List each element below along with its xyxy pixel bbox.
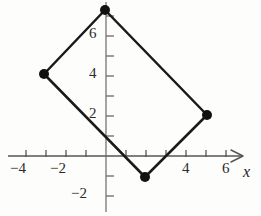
vertex-point xyxy=(140,172,150,182)
x-axis-name-label: x xyxy=(243,164,250,180)
y-tick-label-2: 2 xyxy=(89,106,97,121)
vertex-point xyxy=(202,110,212,120)
x-tick-label-4: 4 xyxy=(182,161,190,176)
y-axis-ticks xyxy=(106,16,114,196)
plot-canvas xyxy=(0,0,261,216)
coordinate-plane-figure: −4 −2 4 6 6 4 2 −2 x xyxy=(0,0,261,216)
vertex-point xyxy=(39,69,49,79)
vertex-point xyxy=(100,5,110,15)
x-tick-label--2: −2 xyxy=(50,161,66,176)
y-tick-label-4: 4 xyxy=(89,66,97,81)
x-tick-label--4: −4 xyxy=(10,161,26,176)
y-tick-label--2: −2 xyxy=(71,186,87,201)
y-tick-label-6: 6 xyxy=(89,26,97,41)
x-tick-label-6: 6 xyxy=(222,161,230,176)
